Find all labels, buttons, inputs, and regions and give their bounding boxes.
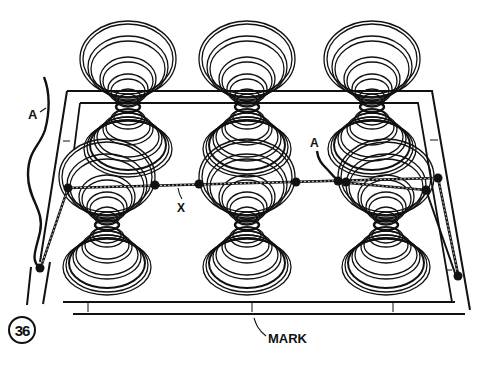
label-a-right: A: [310, 137, 319, 149]
spring-tying-illustration: A A X MARK 36: [0, 0, 495, 375]
label-a-left: A: [28, 108, 37, 121]
diagram-canvas: [0, 0, 495, 375]
spring-back-left: [80, 21, 176, 177]
figure-number-badge: 36: [8, 316, 36, 344]
spring-back-right: [324, 21, 420, 177]
label-mark: MARK: [268, 332, 307, 345]
spring-front-left: [59, 139, 155, 295]
label-x: X: [177, 202, 185, 214]
front-row-springs: [59, 139, 434, 295]
spring-front-right: [338, 139, 434, 295]
